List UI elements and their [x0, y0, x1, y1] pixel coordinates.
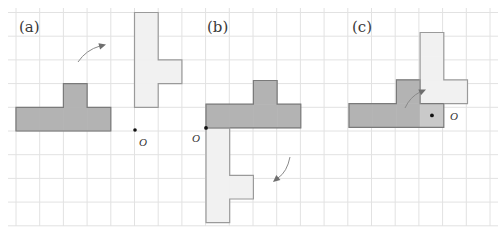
panel-label-b: (b) — [207, 18, 228, 36]
center-label-b: O — [192, 132, 200, 144]
original-cell — [40, 107, 64, 131]
rotation-arrow-a-head-icon — [98, 41, 106, 49]
rotation-figure: (a) (b) (c) O O O — [0, 0, 504, 231]
rotated-cell — [420, 33, 444, 57]
panel-label-c: (c) — [352, 18, 372, 36]
rotated-cell — [230, 175, 254, 199]
original-cell — [206, 104, 230, 128]
panel-label-a: (a) — [19, 18, 40, 36]
rotated-cell — [420, 56, 444, 80]
rotated-cell — [206, 199, 230, 223]
original-cell — [373, 104, 397, 128]
original-cell — [63, 84, 87, 108]
center-point-b — [204, 126, 208, 130]
original-cell — [253, 104, 277, 128]
center-point-c — [430, 114, 434, 118]
original-cell — [277, 104, 301, 128]
shapes — [16, 13, 468, 223]
rotated-cell — [135, 13, 159, 37]
rotation-arrow-b-head-icon — [271, 175, 280, 184]
original-cell — [253, 81, 277, 105]
rotated-cell — [135, 60, 159, 84]
rotated-cell — [206, 152, 230, 176]
rotated-cell — [444, 80, 468, 104]
rotated-cell — [135, 84, 159, 108]
center-label-c: O — [450, 110, 458, 122]
rotated-cell — [206, 128, 230, 152]
rotated-cell — [206, 175, 230, 199]
rotated-cell — [135, 36, 159, 60]
original-cell — [16, 107, 40, 131]
original-cell — [63, 107, 87, 131]
original-cell — [87, 107, 111, 131]
original-cell — [230, 104, 254, 128]
rotated-cell — [158, 60, 182, 84]
center-point-a — [133, 128, 137, 132]
original-cell — [396, 80, 420, 104]
center-label-a: O — [139, 136, 147, 148]
rotation-arrow-b — [278, 157, 290, 178]
original-cell — [396, 104, 420, 128]
original-cell — [349, 104, 373, 128]
